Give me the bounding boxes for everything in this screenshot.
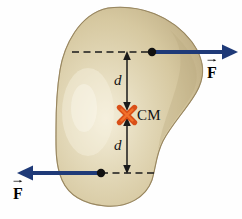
center-of-mass-label: CM (137, 108, 161, 123)
rigid-body-blob (56, 7, 203, 206)
blob-highlight-core (71, 84, 97, 132)
force-label-lower-text: F (13, 185, 23, 202)
figure-canvas (0, 0, 242, 219)
distance-label-below-cm: d (114, 138, 122, 153)
force-label-lower-left: F (13, 185, 23, 203)
force-label-upper-right: F (207, 64, 217, 82)
force-application-point-lower (97, 169, 105, 177)
force-label-upper-text: F (207, 64, 217, 81)
force-application-point-upper (148, 48, 156, 56)
physics-figure-rigid-body-couple: CM d d F F (0, 0, 242, 219)
distance-label-above-cm: d (114, 73, 122, 88)
